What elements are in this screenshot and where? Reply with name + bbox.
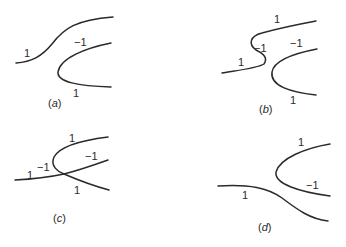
figure-diagram: 1 −1 1 (a) 1 −1 1 −1 1 (b) 1 −1 −1 1 1 (… (0, 0, 346, 247)
panel-a-label-upper-left: 1 (24, 47, 30, 59)
panel-a-label-lower: 1 (73, 87, 79, 99)
panel-b-label-right-minus: −1 (290, 37, 303, 49)
panel-c-label-bottom: 1 (74, 184, 80, 196)
panel-a: 1 −1 1 (a) (16, 17, 113, 109)
panel-d-upper-curve (276, 144, 330, 196)
panel-d-label-lower: 1 (242, 189, 248, 201)
panel-a-label-middle: −1 (74, 36, 87, 48)
panel-a-upper-curve (16, 17, 113, 63)
panel-b-label-top: 1 (274, 13, 280, 25)
panel-c: 1 −1 −1 1 1 (c) (15, 132, 109, 224)
panel-d: 1 −1 1 (d) (218, 136, 330, 233)
panel-c-c-curve (53, 137, 109, 190)
panel-c-label-right-minus: −1 (85, 150, 98, 162)
panel-c-caption: (c) (53, 212, 66, 224)
panel-c-label-left-minus: −1 (37, 161, 50, 173)
panel-c-label-left: 1 (27, 169, 33, 181)
panel-c-label-top: 1 (69, 132, 75, 144)
panel-a-lower-curve (58, 43, 111, 87)
panel-a-caption: (a) (48, 97, 61, 109)
panel-d-caption: (d) (258, 221, 271, 233)
panel-b-label-inner-minus: −1 (254, 42, 267, 54)
panel-b: 1 −1 1 −1 1 (b) (222, 13, 317, 115)
panel-b-lower-curve (272, 49, 317, 95)
panel-d-label-top: 1 (298, 136, 304, 148)
panel-b-label-bottom: 1 (290, 94, 296, 106)
panel-b-label-left: 1 (238, 56, 244, 68)
panel-d-label-minus: −1 (306, 179, 319, 191)
panel-b-caption: (b) (259, 103, 272, 115)
